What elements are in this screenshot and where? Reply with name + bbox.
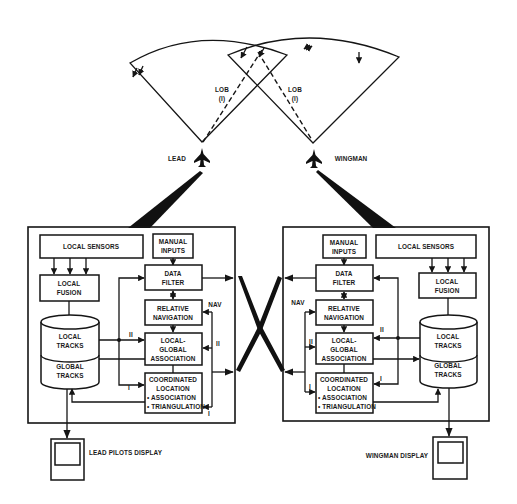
wingman-relative-navigation-label-1: RELATIVE: [328, 305, 361, 312]
lead-pilots-display-label: LEAD PILOTS DISPLAY: [89, 449, 163, 456]
lead-relative-navigation-label-2: NAVIGATION: [153, 314, 193, 321]
lead-data-filter-box: [145, 265, 202, 290]
lead-lga-label-2: GLOBAL: [159, 346, 187, 353]
lead-link-i-left: I: [128, 384, 130, 391]
wingman-link-nav: NAV: [291, 299, 305, 306]
wingman-lga-label-2: GLOBAL: [330, 346, 358, 353]
wingman-lga-label-3: ASSOCIATION: [321, 355, 366, 362]
wingman-data-filter-label-1: DATA: [335, 270, 352, 277]
lob-line-wingman: [258, 52, 312, 140]
lead-data-filter-label-2: FILTER: [162, 279, 185, 286]
wingman-label: WINGMAN: [335, 155, 368, 162]
datalink-cross: [236, 276, 285, 372]
lead-manual-inputs-label-2: INPUTS: [161, 247, 186, 254]
wingman-manual-inputs-label-1: MANUAL: [330, 239, 358, 246]
wingman-system-beam: [316, 170, 396, 228]
lob-label-left: LOB: [215, 86, 229, 93]
lead-link-ii-left: II: [129, 331, 133, 338]
lead-label: LEAD: [168, 155, 186, 162]
lead-global-tracks-1: GLOBAL: [56, 363, 84, 370]
wingman-local-fusion-label-2: FUSION: [435, 287, 460, 294]
diagram-canvas: LOB (I) LOB (I) LEAD WINGMAN LOCAL SENSO…: [0, 0, 517, 504]
wingman-cl-label-2: LOCATION: [327, 385, 361, 392]
wingman-local-tracks-2: TRACKS: [434, 342, 462, 349]
wingman-system: MANUAL INPUTS LOCAL SENSORS LOCAL FUSION…: [283, 227, 489, 436]
lead-aircraft-icon: [194, 148, 210, 167]
wingman-link-i-right: I: [380, 375, 382, 382]
wingman-link-ii-right: II: [380, 326, 384, 333]
wingman-data-filter-box: [316, 265, 373, 291]
lead-system: LOCAL SENSORS LOCAL FUSION LOCAL TRACKS …: [28, 227, 235, 438]
lead-cl-label-3: • ASSOCIATION: [147, 394, 196, 401]
lead-data-filter-label-1: DATA: [164, 270, 181, 277]
wingman-global-tracks-2: TRACKS: [434, 371, 462, 378]
wingman-global-tracks-1: GLOBAL: [434, 362, 462, 369]
lead-lga-label-3: ASSOCIATION: [150, 355, 195, 362]
wingman-manual-inputs-label-2: INPUTS: [332, 248, 357, 255]
wingman-link-i-left: I: [309, 383, 311, 390]
target-icon-wingman-sector: [304, 45, 359, 63]
lead-link-i-right: I: [208, 410, 210, 417]
wingman-display-icon: [433, 437, 467, 479]
wingman-lga-label-1: LOCAL-: [332, 337, 357, 344]
wingman-sensor-sector: [228, 38, 399, 143]
lead-local-tracks-1: LOCAL: [59, 333, 82, 340]
wingman-data-filter-label-2: FILTER: [333, 279, 356, 286]
lob-label-right-sub: (I): [292, 95, 298, 103]
wingman-display-label: WINGMAN DISPLAY: [366, 452, 429, 459]
lead-global-tracks-2: TRACKS: [56, 372, 84, 379]
lob-line-lead: [203, 50, 262, 142]
lob-label-left-sub: (I): [219, 95, 225, 103]
lead-lga-label-1: LOCAL-: [161, 337, 186, 344]
wingman-local-sensors-label: LOCAL SENSORS: [398, 243, 455, 250]
wingman-cl-label-1: COORDINATED: [320, 376, 368, 383]
lead-cl-label-2: LOCATION: [156, 385, 190, 392]
wingman-cl-label-3: • ASSOCIATION: [318, 394, 367, 401]
wingman-link-ii-left: II: [309, 338, 313, 345]
wingman-local-fusion-box: [419, 273, 476, 298]
lead-local-fusion-label-1: LOCAL: [58, 280, 81, 287]
lead-relative-navigation-box: [145, 300, 202, 325]
lead-relative-navigation-label-1: RELATIVE: [157, 305, 190, 312]
lead-link-nav: NAV: [208, 301, 222, 308]
wingman-aircraft-icon: [306, 149, 322, 168]
lead-local-sensors-label: LOCAL SENSORS: [63, 243, 120, 250]
lead-cl-label-1: COORDINATED: [149, 376, 197, 383]
lead-local-fusion-label-2: FUSION: [57, 289, 82, 296]
lead-local-tracks-2: TRACKS: [56, 342, 84, 349]
lob-label-right: LOB: [288, 86, 302, 93]
wingman-relative-navigation-box: [316, 300, 373, 325]
lead-pilots-display-icon: [51, 439, 84, 480]
lead-local-fusion-box: [40, 275, 99, 301]
lead-system-beam: [128, 171, 203, 228]
wingman-local-fusion-label-1: LOCAL: [436, 278, 459, 285]
wingman-relative-navigation-label-2: NAVIGATION: [324, 314, 364, 321]
lead-link-ii-right: II: [216, 340, 220, 347]
wingman-local-tracks-1: LOCAL: [437, 333, 460, 340]
lead-cl-label-4: • TRIANGULATION: [147, 403, 205, 410]
lead-manual-inputs-label-1: MANUAL: [159, 238, 187, 245]
wingman-cl-label-4: • TRIANGULATION: [318, 403, 376, 410]
